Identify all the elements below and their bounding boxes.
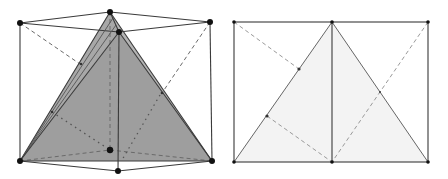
net-vertex-bottom-left [232,160,236,164]
marker-right-edge [161,92,164,95]
vertex-top-left [17,20,23,26]
net-dashed-upper-left [234,22,299,69]
tetrahedron-front-face [20,32,212,161]
marker-left-lower [51,111,54,114]
geometry-figure [0,0,448,179]
net-vertex-bottom-right [426,160,430,164]
net-vertex-top-left [232,20,236,24]
net-vertex-top-right [426,20,430,24]
diagram-canvas [0,0,448,179]
left-3d-view [17,9,215,174]
marker-left-edge [80,63,83,66]
edge-top-left-to-back [20,12,110,23]
net-marker-upper [297,67,300,70]
edge-right-vertical [210,22,212,161]
right-2d-view [232,20,430,164]
vertex-bottom-front [115,168,121,174]
net-marker-lower [265,114,268,117]
hidden-edge-tl-diagonal [20,23,80,64]
hidden-edge-tr-diagonal [162,22,210,93]
edge-top-front-to-right [119,22,210,32]
vertex-top-front [116,29,122,35]
vertex-bottom-back [107,147,113,153]
edge-top-back-to-right [110,12,210,22]
vertex-top-back [107,9,113,15]
vertex-top-right [207,19,213,25]
net-vertex-top-middle [330,20,334,24]
edge-bottom-left-to-front [20,161,118,171]
vertex-bottom-right [209,158,215,164]
net-vertex-bottom-middle [330,160,334,164]
edge-bottom-front-to-right [118,161,212,171]
net-marker-right [379,91,381,93]
vertex-bottom-left [17,158,23,164]
